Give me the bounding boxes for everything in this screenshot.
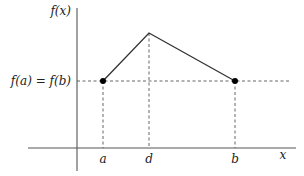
tick-label-b: b [231,152,239,166]
tick-label-d: d [145,152,153,166]
y-axis-label: f(x) [49,4,71,18]
level-label: f(a) = f(b) [10,74,71,88]
tick-label-a: a [99,152,106,166]
point-a [100,78,106,84]
diagram-canvas: f(x) f(a) = f(b) a d b x [0,0,304,176]
function-curve [103,33,235,81]
x-axis-label: x [280,148,287,162]
point-b [232,78,238,84]
